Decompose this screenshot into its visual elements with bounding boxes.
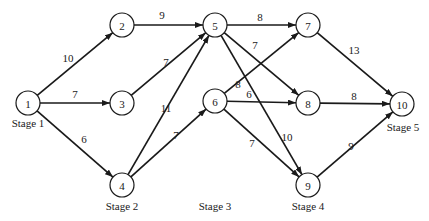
edge-weight-label: 7 [249,137,255,149]
node-9: 9 [296,173,320,197]
node-1: 1 [16,91,40,115]
edge-weight-label: 10 [282,131,294,143]
node-layer: 12345678910 [16,13,414,197]
node-8: 8 [296,91,320,115]
staged-network-diagram: 10769711787108671389 12345678910 Stage 1… [0,0,429,221]
edge-weight-label: 11 [161,102,172,114]
node-label: 4 [119,180,125,192]
edge-weight-label: 7 [163,56,169,68]
stage-label: Stage 3 [199,200,232,212]
edge-weight-label: 7 [72,88,78,100]
node-label: 8 [305,98,311,110]
edge-4-6 [131,109,206,177]
node-label: 9 [305,180,311,192]
node-label: 10 [397,99,409,111]
node-label: 6 [212,96,218,108]
stage-label: Stage 5 [387,121,420,133]
edge-5-9 [221,35,302,174]
node-4: 4 [110,173,134,197]
edge-weight-label: 9 [159,9,165,21]
node-label: 1 [25,98,31,110]
edge-weight-label: 8 [257,11,263,23]
node-7: 7 [296,13,320,37]
node-10: 10 [390,92,414,116]
node-3: 3 [110,91,134,115]
edge-weight-label: 7 [173,129,179,141]
stage-label: Stage 2 [106,200,139,212]
edge-weight-label: 8 [351,90,357,102]
edge-9-10 [317,112,393,177]
edge-6-9 [224,109,299,177]
edge-weight-label: 8 [235,78,241,90]
stage-label: Stage 4 [292,200,325,212]
edge-8-10 [320,103,390,104]
node-label: 5 [212,20,218,32]
stage-label-layer: Stage 1Stage 2Stage 3Stage 4Stage 5 [12,117,420,212]
stage-label: Stage 1 [12,117,45,129]
node-label: 7 [305,20,311,32]
edge-7-10 [317,33,393,97]
edge-weight-label: 6 [246,88,252,100]
node-label: 3 [119,98,125,110]
node-5: 5 [203,13,227,37]
edge-weight-label: 6 [81,133,87,145]
node-2: 2 [110,13,134,37]
node-label: 2 [119,20,125,32]
node-6: 6 [203,89,227,113]
edge-1-4 [37,111,113,177]
edge-weight-label: 7 [252,39,258,51]
edge-weight-label: 13 [349,44,361,56]
edge-6-8 [227,101,296,102]
edge-weight-label: 10 [63,52,75,64]
edge-weight-label: 9 [348,140,354,152]
edge-1-2 [37,33,113,96]
